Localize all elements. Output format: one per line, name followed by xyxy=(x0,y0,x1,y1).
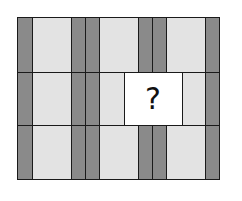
grid-cell-dark xyxy=(17,72,33,126)
grid-cell-dark xyxy=(138,125,153,180)
grid-cell-dark xyxy=(205,125,220,180)
grid-cell-light xyxy=(166,17,206,73)
grid-cell-dark xyxy=(205,72,220,126)
grid-cell-light xyxy=(99,125,139,180)
puzzle-grid: ? xyxy=(17,17,219,179)
grid-cell-light xyxy=(166,125,206,180)
question-mark: ? xyxy=(145,81,161,116)
grid-cell-dark xyxy=(152,17,167,73)
grid-cell-dark xyxy=(152,125,167,180)
grid-cell-dark xyxy=(71,17,86,73)
grid-cell-dark xyxy=(205,17,220,73)
missing-piece-box: ? xyxy=(124,72,183,126)
grid-cell-dark xyxy=(85,72,100,126)
grid-cell-dark xyxy=(17,17,33,73)
grid-cell-dark xyxy=(85,17,100,73)
grid-cell-light xyxy=(32,125,72,180)
grid-cell-dark xyxy=(17,125,33,180)
grid-cell-dark xyxy=(138,17,153,73)
grid-cell-dark xyxy=(71,72,86,126)
grid-cell-dark xyxy=(71,125,86,180)
grid-cell-dark xyxy=(85,125,100,180)
grid-cell-light xyxy=(99,17,139,73)
grid-cell-light xyxy=(32,17,72,73)
grid-cell-light xyxy=(32,72,72,126)
